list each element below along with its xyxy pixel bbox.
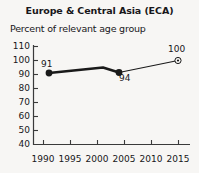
chart-figure: Europe & Central Asia (ECA) Percent of r… (0, 0, 199, 173)
data-point-2004 (116, 69, 123, 76)
series-target-line (119, 61, 178, 73)
y-tick-marks (34, 47, 39, 131)
plot-area (0, 0, 199, 173)
series-observed-line (49, 68, 119, 74)
data-point-2015-target-center (177, 59, 179, 61)
x-tick-marks (44, 140, 179, 145)
data-point-1991 (46, 70, 53, 77)
